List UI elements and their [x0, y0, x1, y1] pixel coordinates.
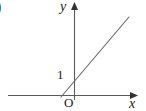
x-axis-label: x — [129, 97, 135, 111]
y-axis-label: y — [60, 0, 66, 14]
y-intercept-tick-label: 1 — [57, 68, 64, 81]
y-axis-arrowhead — [71, 2, 78, 10]
plotted-line — [61, 17, 129, 97]
graph-canvas — [0, 0, 146, 111]
coordinate-graph-figure: ) y x 1 O — [0, 0, 146, 111]
origin-label: O — [64, 96, 73, 109]
